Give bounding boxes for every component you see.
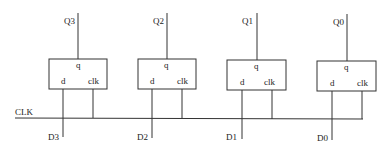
register-diagram: CLK Q3 q d clk D3 Q2 q d clk D2 Q1 q d c… [0,0,389,154]
input-label: D1 [226,132,237,142]
pin-d-label: d [240,77,245,87]
output-label: Q0 [333,17,344,27]
input-label: D2 [137,132,148,142]
pin-clk-label: clk [177,76,188,86]
flipflop-1: Q1 q d clk D1 [226,13,286,142]
pin-clk-label: clk [357,78,368,88]
pin-clk-label: clk [88,76,99,86]
flipflop-2: Q2 q d clk D2 [137,13,196,142]
pin-q-label: q [344,62,349,72]
clock-bus [15,118,363,119]
pin-q-label: q [164,60,169,70]
input-label: D0 [317,133,328,143]
pin-q-label: q [76,60,81,70]
output-label: Q1 [242,16,253,26]
output-label: Q2 [153,16,164,26]
pin-d-label: d [150,76,155,86]
flipflop-3: Q3 q d clk D3 [48,13,107,142]
pin-d-label: d [61,76,66,86]
pin-d-label: d [330,78,335,88]
flipflop-0: Q0 q d clk D0 [317,14,376,143]
output-label: Q3 [64,16,75,26]
clock-label: CLK [15,107,34,117]
pin-q-label: q [254,61,259,71]
pin-clk-label: clk [264,77,275,87]
input-label: D3 [48,132,59,142]
